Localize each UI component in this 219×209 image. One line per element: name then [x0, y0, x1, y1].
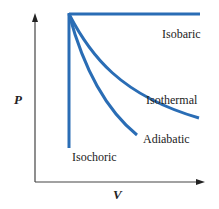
pv-diagram: Isobaric Isothermal Adiabatic Isochoric …: [0, 0, 219, 209]
adiabatic-label: Adiabatic: [143, 132, 190, 146]
isothermal-label: Isothermal: [146, 93, 198, 107]
x-axis-label: V: [113, 187, 123, 202]
y-axis-label: P: [14, 92, 23, 107]
isobaric-label: Isobaric: [162, 27, 201, 41]
isochoric-label: Isochoric: [72, 150, 117, 164]
y-axis-arrow-icon: [32, 13, 38, 22]
x-axis-arrow-icon: [196, 179, 205, 185]
